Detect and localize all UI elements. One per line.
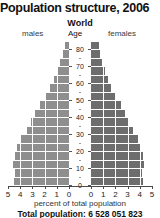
bar-row [91, 168, 152, 176]
age-tick-minor [79, 58, 81, 59]
bar-row [91, 151, 152, 159]
x-tick-label: 3 [26, 190, 38, 199]
age-axis: 80706050403020100 [69, 41, 91, 185]
x-tick-label: 0 [85, 190, 97, 199]
gridline-vertical [152, 41, 153, 185]
bar-male [39, 100, 69, 108]
bar-male [53, 75, 69, 83]
bar-female [91, 134, 139, 142]
x-tick-label: 4 [14, 190, 26, 199]
bar-row [91, 177, 152, 185]
x-tick-label: 1 [97, 190, 109, 199]
population-pyramid-chart: Population structure, 2006 World males A… [0, 0, 160, 218]
bar-male [56, 66, 69, 74]
bar-row [91, 75, 152, 83]
total-population-label: Total population: 6 528 051 823 [0, 209, 160, 218]
age-tick-label: 70 [69, 63, 91, 70]
bar-male [34, 109, 69, 117]
bar-male [26, 126, 69, 134]
x-tick-label: 2 [109, 190, 121, 199]
bar-row [8, 75, 69, 83]
male-bars-group [8, 41, 69, 185]
bar-female [91, 160, 145, 168]
bar-female [91, 100, 122, 108]
bar-male [16, 143, 69, 151]
bar-female [91, 109, 126, 117]
bar-row [8, 160, 69, 168]
bar-male [14, 151, 70, 159]
age-tick-label: 30 [69, 131, 91, 138]
bar-row [8, 66, 69, 74]
bar-row [8, 177, 69, 185]
x-tick-label: 5 [2, 190, 14, 199]
x-tick-label: 0 [63, 190, 75, 199]
x-tick-mark [57, 186, 58, 189]
bar-female [91, 143, 142, 151]
bar-row [91, 66, 152, 74]
female-bars-group [91, 41, 152, 185]
bar-row [91, 83, 152, 91]
x-tick-mark [91, 186, 92, 189]
age-tick-minor [79, 160, 81, 161]
x-tick-label: 3 [122, 190, 134, 199]
bar-female [91, 41, 100, 49]
age-tick-minor [79, 126, 81, 127]
bar-male [13, 177, 69, 185]
bar-row [8, 151, 69, 159]
page-title: Population structure, 2006 [0, 1, 160, 15]
bar-female [91, 49, 101, 57]
bar-row [91, 117, 152, 125]
bar-male [30, 117, 69, 125]
bar-row [8, 117, 69, 125]
x-tick-label: 4 [134, 190, 146, 199]
bar-row [8, 41, 69, 49]
age-tick-minor [79, 92, 81, 93]
bar-female [91, 126, 134, 134]
age-tick-label: 40 [69, 114, 91, 121]
age-tick-minor [79, 75, 81, 76]
bar-row [91, 41, 152, 49]
bar-row [91, 160, 152, 168]
age-tick-label: 10 [69, 165, 91, 172]
x-tick-mark [8, 186, 9, 189]
bar-row [91, 143, 152, 151]
bar-male [14, 168, 70, 176]
bar-female [91, 168, 143, 176]
bar-female [91, 66, 106, 74]
chart-subtitle: World [0, 18, 160, 28]
bar-row [91, 134, 152, 142]
x-tick-mark [128, 186, 129, 189]
x-tick-mark [140, 186, 141, 189]
bar-male [59, 58, 69, 66]
age-tick-minor [79, 143, 81, 144]
x-axis-line [8, 186, 152, 187]
x-tick-mark [103, 186, 104, 189]
bar-row [8, 168, 69, 176]
bar-row [8, 58, 69, 66]
bar-row [8, 143, 69, 151]
bar-row [8, 134, 69, 142]
bar-row [91, 109, 152, 117]
bar-male [12, 160, 69, 168]
bar-female [91, 177, 144, 185]
axis-label-age: Age [68, 29, 82, 38]
age-tick-minor [79, 177, 81, 178]
x-tick-mark [32, 186, 33, 189]
age-tick-label: 0 [69, 182, 91, 189]
bar-row [91, 126, 152, 134]
bar-male [20, 134, 69, 142]
bar-row [91, 58, 152, 66]
x-tick-mark [115, 186, 116, 189]
age-tick-label: 50 [69, 97, 91, 104]
bar-male [62, 49, 69, 57]
axis-label-percent: percent of total population [0, 199, 160, 208]
bar-row [8, 49, 69, 57]
legend-label-males: males [22, 29, 43, 38]
x-tick-mark [69, 186, 70, 189]
bar-female [91, 151, 144, 159]
bar-row [8, 83, 69, 91]
bar-row [91, 49, 152, 57]
bar-row [91, 92, 152, 100]
x-tick-mark [20, 186, 21, 189]
bar-row [8, 92, 69, 100]
